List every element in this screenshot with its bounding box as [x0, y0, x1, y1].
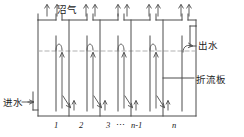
gas-hood-5 — [156, 14, 182, 20]
upflow-arrow-2 — [91, 52, 95, 108]
overflow-curve-1 — [56, 44, 62, 50]
biogas-arrow-9 — [179, 4, 183, 16]
upflow-arrow-4 — [154, 52, 158, 108]
influent-arrow — [22, 100, 34, 104]
compartment-number-n-minus-1: n-1 — [131, 120, 142, 130]
biogas-arrow-10 — [187, 4, 191, 16]
gas-hood-3 — [93, 14, 118, 20]
compartment-number-n: n — [172, 120, 176, 130]
biogas-arrow-5 — [116, 4, 120, 16]
overflow-curve-4 — [150, 44, 156, 50]
overflow-curve-2 — [87, 44, 93, 50]
biogas-arrow-6 — [125, 4, 129, 16]
effluent-label: 出水 — [198, 38, 218, 52]
compartment-number-3: 3 — [106, 120, 110, 130]
compartment-ellipsis: ⋯ — [116, 120, 126, 130]
baffle-plate-label: 折流板 — [196, 72, 226, 86]
biogas-arrow-3 — [84, 4, 88, 16]
overflow-curve-3 — [118, 44, 124, 50]
diagram-canvas: 沼气 出水 折流板 进水 1 2 3 ⋯ n-1 n — [0, 0, 244, 137]
upflow-arrow-3 — [122, 52, 126, 108]
influent-connector — [33, 102, 38, 110]
influent-label: 进水 — [3, 95, 23, 109]
biogas-label: 沼气 — [57, 2, 77, 16]
compartment-number-2: 2 — [79, 120, 83, 130]
biogas-arrow-7 — [147, 4, 151, 16]
biogas-arrow-1 — [45, 4, 49, 16]
upflow-arrow-1 — [60, 52, 64, 108]
compartment-number-1: 1 — [54, 120, 58, 130]
gas-hood-4 — [124, 14, 150, 20]
effluent-pipe — [190, 26, 196, 46]
reactor-schematic-svg — [0, 0, 244, 137]
